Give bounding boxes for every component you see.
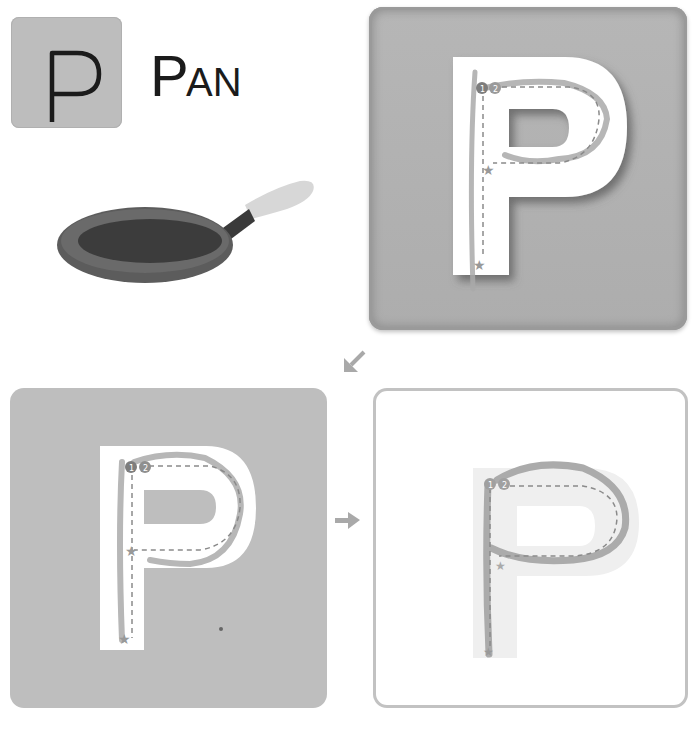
letter-p-outline-gray: 1 2 ★ ★ bbox=[10, 388, 327, 708]
word-initial: P bbox=[150, 44, 189, 104]
star-icon: ★ bbox=[495, 559, 506, 573]
star-icon: ★ bbox=[473, 257, 486, 273]
letter-p-embossed: 1 2 ★ ★ bbox=[369, 7, 687, 330]
word-label: P AN bbox=[150, 44, 260, 104]
star-icon: ★ bbox=[483, 645, 494, 659]
svg-text:1: 1 bbox=[480, 85, 485, 94]
star-icon: ★ bbox=[482, 162, 495, 178]
word-rest: AN bbox=[186, 60, 242, 104]
svg-text:2: 2 bbox=[502, 481, 507, 490]
letter-p-glyph bbox=[11, 17, 122, 128]
frying-pan-illustration bbox=[55, 175, 315, 285]
arrow-down-left-icon bbox=[340, 346, 370, 376]
practice-card-guide[interactable]: 1 2 ★ ★ bbox=[369, 7, 687, 330]
letter-tile[interactable] bbox=[11, 17, 122, 128]
svg-text:1: 1 bbox=[129, 464, 134, 473]
svg-text:2: 2 bbox=[143, 464, 148, 473]
letter-p-outline-white: 1 2 ★ ★ bbox=[373, 388, 688, 708]
arrow-right-icon bbox=[333, 508, 365, 532]
svg-text:2: 2 bbox=[493, 85, 498, 94]
star-icon: ★ bbox=[125, 543, 138, 559]
star-icon: ★ bbox=[118, 631, 131, 647]
practice-card-trace-white[interactable]: 1 2 ★ ★ bbox=[373, 388, 688, 708]
svg-text:1: 1 bbox=[488, 481, 493, 490]
practice-card-trace-gray[interactable]: 1 2 ★ ★ bbox=[10, 388, 327, 708]
